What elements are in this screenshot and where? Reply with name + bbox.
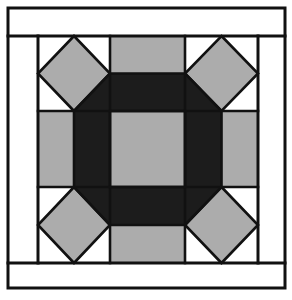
left-border-strip (8, 36, 38, 263)
bottom-border-strip (8, 263, 285, 288)
quilt-block-diagram: Quilt Block Diagram (0, 0, 292, 300)
center-square (110, 111, 185, 187)
top-border-strip (8, 8, 285, 36)
right-border-strip (258, 36, 285, 263)
block-interior (38, 36, 258, 263)
